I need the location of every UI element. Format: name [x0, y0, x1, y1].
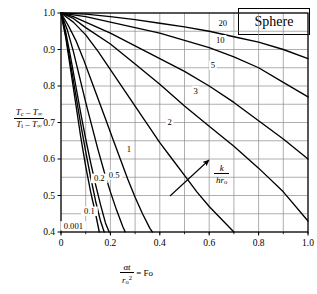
- curve-label-3: 3: [193, 86, 197, 96]
- curve-label-2: 2: [168, 117, 172, 127]
- x-tick-label: 0.8: [253, 238, 265, 248]
- curve-label-1: 1: [127, 144, 131, 154]
- x-tick-label: 0.6: [203, 238, 215, 248]
- y-tick-label: 0.6: [43, 154, 55, 164]
- curve-label-10: 10: [216, 35, 225, 45]
- arrow-increasing-k-hr: [170, 160, 209, 196]
- curve-label-0.1: 0.1: [84, 206, 95, 216]
- k-hr-arrow: [170, 160, 209, 196]
- x-tick-label: 0.4: [154, 238, 166, 248]
- curve-label-20: 20: [218, 18, 227, 28]
- y-tick-label: 1.0: [43, 8, 55, 18]
- heisler-chart-sphere: Tc – T∞ Ti – T∞ αt ro2 = Fo Sphere k hro: [0, 0, 317, 294]
- curve-label-5: 5: [211, 60, 215, 70]
- curve-label-0.5: 0.5: [109, 170, 120, 180]
- y-tick-label: 0.4: [43, 227, 55, 237]
- curve-label-0.001: 0.001: [64, 221, 83, 231]
- curve-label-0.2: 0.2: [94, 173, 105, 183]
- x-tick-label: 1.0: [302, 238, 314, 248]
- y-tick-label: 0.7: [43, 118, 55, 128]
- y-tick-label: 0.9: [43, 45, 55, 55]
- y-tick-label: 0.8: [43, 81, 55, 91]
- y-tick-label: 0.5: [43, 191, 55, 201]
- plot-area: 00.20.40.60.81.00.40.50.60.70.80.91.0 0.…: [0, 0, 317, 294]
- x-tick-label: 0.2: [104, 238, 116, 248]
- x-tick-label: 0: [59, 238, 64, 248]
